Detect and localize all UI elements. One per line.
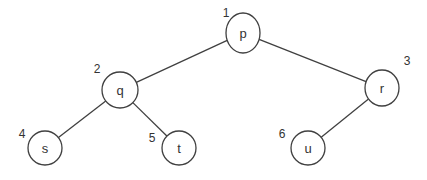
node-label: t	[177, 141, 181, 156]
node-index: 4	[19, 127, 26, 141]
node-r: r3	[365, 54, 411, 106]
node-index: 2	[94, 62, 101, 76]
node-t: t5	[149, 131, 196, 165]
node-label: q	[116, 83, 123, 98]
edge-q-s	[58, 101, 105, 138]
tree-diagram: p1q2r3s4t5u6	[0, 0, 427, 180]
node-index: 3	[404, 54, 411, 68]
node-label: r	[380, 81, 385, 96]
node-q: q2	[94, 62, 138, 108]
node-label: s	[42, 141, 49, 156]
node-s: s4	[19, 127, 62, 165]
nodes-group: p1q2r3s4t5u6	[19, 6, 411, 165]
edge-r-u	[321, 99, 368, 137]
node-index: 6	[279, 127, 286, 141]
node-label: u	[304, 141, 311, 156]
node-p: p1	[223, 6, 260, 53]
node-label: p	[239, 26, 246, 41]
node-index: 1	[223, 6, 230, 20]
node-index: 5	[149, 131, 156, 145]
edge-p-r	[259, 39, 366, 81]
edge-p-q	[136, 40, 227, 82]
node-u: u6	[279, 127, 325, 165]
